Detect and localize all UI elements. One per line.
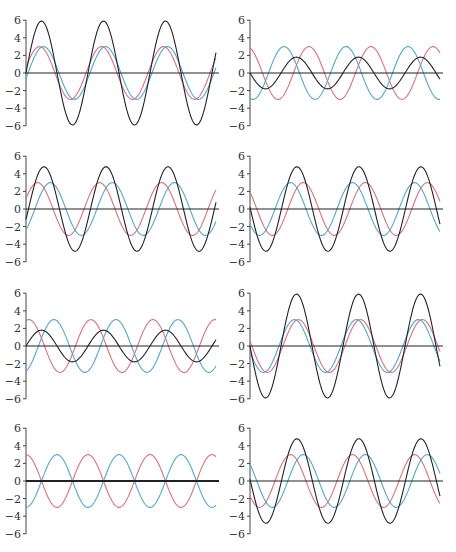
y-tick-label: 0 [238,475,245,488]
y-tick-label: 4 [14,305,21,318]
y-tick-label: 2 [14,49,21,62]
y-tick-label: 4 [14,168,21,181]
y-tick-label: −4 [5,238,21,251]
y-tick-label: −6 [229,528,245,541]
y-tick-label: −6 [5,528,21,541]
chart-panel-3: 6420−2−4−6 [5,150,219,269]
y-tick-label: 2 [238,49,245,62]
y-tick-label: 2 [238,322,245,335]
y-tick-label: 4 [238,168,245,181]
y-tick-label: −6 [229,120,245,133]
y-tick-label: −4 [229,510,245,523]
y-tick-label: 6 [238,150,245,163]
y-tick-label: −4 [5,102,21,115]
y-tick-label: 2 [238,457,245,470]
y-tick-label: 6 [14,422,21,435]
y-tick-label: 6 [238,14,245,27]
chart-panel-5: 6420−2−4−6 [5,287,219,406]
y-tick-label: −6 [5,393,21,406]
y-tick-label: −2 [229,85,245,98]
chart-panel-2: 6420−2−4−6 [229,14,443,133]
y-tick-label: 6 [238,422,245,435]
y-tick-label: −6 [5,256,21,269]
y-tick-label: −2 [5,493,21,506]
y-tick-label: −6 [229,256,245,269]
y-tick-label: −4 [5,510,21,523]
y-tick-label: 2 [14,457,21,470]
chart-panel-1: 6420−2−4−6 [5,14,219,133]
y-tick-label: 4 [14,32,21,45]
chart-panel-4: 6420−2−4−6 [229,150,443,269]
y-tick-label: 4 [238,440,245,453]
y-tick-label: −2 [229,221,245,234]
y-tick-label: −4 [5,375,21,388]
y-tick-label: −2 [229,358,245,371]
y-tick-label: 0 [14,340,21,353]
y-tick-label: 0 [14,475,21,488]
y-tick-label: 4 [14,440,21,453]
y-tick-label: −4 [229,375,245,388]
y-tick-label: −2 [5,358,21,371]
y-tick-label: 2 [238,185,245,198]
y-tick-label: −6 [229,393,245,406]
chart-panel-6: 6420−2−4−6 [229,287,443,406]
y-tick-label: −6 [5,120,21,133]
y-tick-label: −4 [229,102,245,115]
y-tick-label: 6 [14,150,21,163]
y-tick-label: 6 [14,287,21,300]
y-tick-label: −2 [5,221,21,234]
y-tick-label: −4 [229,238,245,251]
y-tick-label: 0 [14,67,21,80]
y-tick-label: 0 [238,67,245,80]
y-tick-label: 6 [238,287,245,300]
y-tick-label: 2 [14,185,21,198]
y-tick-label: 6 [14,14,21,27]
y-tick-label: −2 [5,85,21,98]
y-tick-label: 0 [238,203,245,216]
y-tick-label: 0 [14,203,21,216]
y-tick-label: −2 [229,493,245,506]
wave-superposition-figure: 6420−2−4−6 6420−2−4−6 6420−2−4−6 6420−2−… [0,0,456,552]
y-tick-label: 4 [238,32,245,45]
y-tick-label: 2 [14,322,21,335]
y-tick-label: 0 [238,340,245,353]
chart-panel-7: 6420−2−4−6 [5,422,219,541]
y-tick-label: 4 [238,305,245,318]
chart-panel-8: 6420−2−4−6 [229,422,443,541]
